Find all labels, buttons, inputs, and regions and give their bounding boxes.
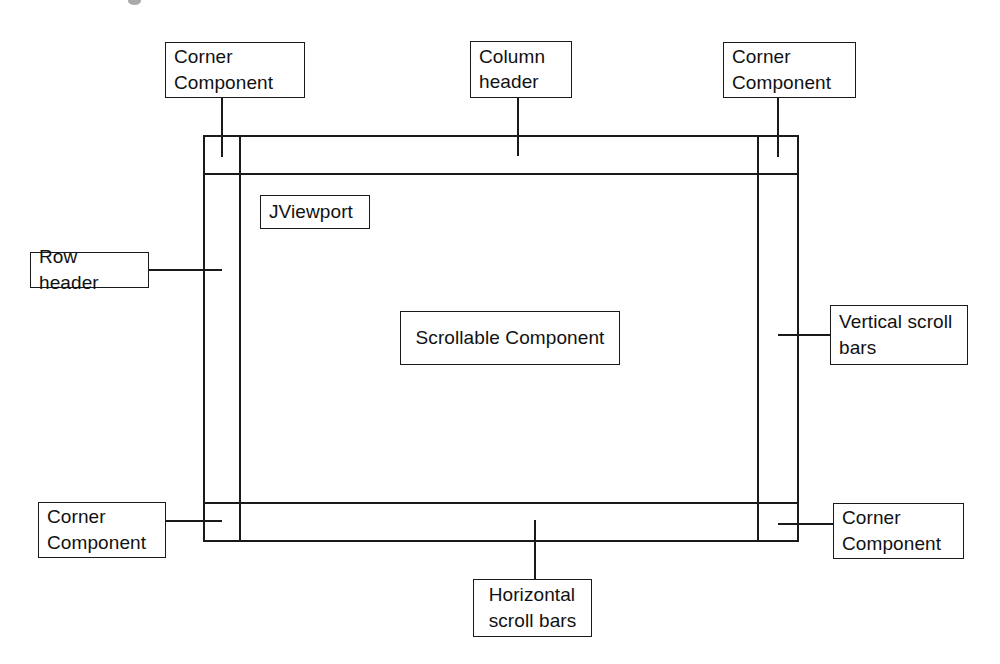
corner-component-bottom-left: Corner Component (38, 502, 166, 558)
diagram-canvas: Corner ComponentColumn headerCorner Comp… (0, 0, 1000, 664)
corner-component-top-right: Corner Component (723, 42, 856, 98)
corner-component-bottom-right: Corner Component (833, 503, 964, 559)
corner-component-top-left: Corner Component (165, 42, 305, 98)
horizontal-scroll-bars: Horizontal scroll bars (473, 579, 592, 637)
row-header: Row header (30, 252, 149, 288)
jviewport: JViewport (260, 195, 370, 229)
scrollable-component: Scrollable Component (400, 311, 620, 365)
column-header: Column header (470, 41, 572, 98)
vertical-scroll-bars: Vertical scroll bars (830, 305, 968, 365)
